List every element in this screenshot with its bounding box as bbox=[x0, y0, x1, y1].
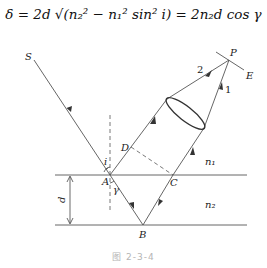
label-angle-i: i bbox=[104, 156, 107, 167]
label-d-thickness: d bbox=[56, 197, 67, 203]
label-e: E bbox=[245, 70, 254, 81]
refracted-ray bbox=[110, 175, 143, 225]
label-d: D bbox=[120, 142, 129, 153]
label-n1: n₁ bbox=[205, 156, 215, 167]
ray-1-lower bbox=[173, 128, 204, 175]
figure-caption: 图 2-3-4 bbox=[0, 250, 267, 263]
label-a: A bbox=[101, 176, 109, 187]
label-ray-1: 1 bbox=[225, 84, 231, 95]
incident-ray bbox=[34, 60, 110, 175]
ray-2-lower bbox=[110, 99, 167, 175]
label-p: P bbox=[229, 47, 237, 58]
wavefront-dc bbox=[131, 147, 173, 175]
label-angle-gamma: γ bbox=[113, 184, 119, 195]
reflected-ray-in-film bbox=[143, 175, 173, 225]
lens bbox=[162, 93, 208, 134]
label-ray-2: 2 bbox=[197, 64, 203, 75]
thin-film-interference-diagram: S P E A B C D 2 1 n₁ n₂ i γ d bbox=[0, 0, 267, 268]
label-n2: n₂ bbox=[205, 199, 215, 210]
angle-gamma-arc bbox=[110, 181, 114, 183]
label-b: B bbox=[138, 229, 146, 240]
label-s: S bbox=[25, 51, 32, 62]
label-c: C bbox=[170, 177, 178, 188]
